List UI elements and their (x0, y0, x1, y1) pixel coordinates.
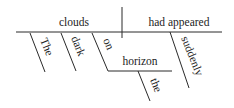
sentence-diagram: clouds had appeared The dark on horizon … (0, 0, 234, 108)
subject-word: clouds (59, 16, 90, 28)
preposition-on: on (101, 36, 117, 51)
modifier-dark: dark (69, 34, 88, 58)
modifier-the: The (38, 36, 56, 57)
adverb-suddenly: suddenly (178, 34, 206, 78)
verb-word: had appeared (149, 16, 210, 29)
modifier-the-lower-line (138, 71, 150, 101)
modifier-the-lower: the (148, 76, 164, 94)
object-horizon: horizon (122, 55, 157, 67)
